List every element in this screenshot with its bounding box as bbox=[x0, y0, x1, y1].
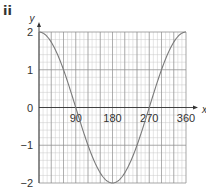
y-tick-label: −1 bbox=[20, 139, 33, 151]
cosine-chart: −2−101290180270360xy bbox=[0, 0, 206, 189]
x-axis-arrow-icon bbox=[193, 106, 198, 110]
y-axis-arrow-icon bbox=[37, 22, 41, 27]
x-tick-label: 270 bbox=[140, 112, 158, 124]
y-tick-label: 2 bbox=[27, 26, 33, 38]
y-tick-label: −2 bbox=[20, 177, 33, 189]
y-tick-label: 0 bbox=[27, 102, 33, 114]
x-tick-label: 180 bbox=[103, 112, 121, 124]
y-axis-label: y bbox=[29, 13, 36, 24]
x-tick-label: 360 bbox=[177, 112, 195, 124]
y-tick-label: 1 bbox=[27, 64, 33, 76]
x-axis-label: x bbox=[201, 104, 206, 115]
